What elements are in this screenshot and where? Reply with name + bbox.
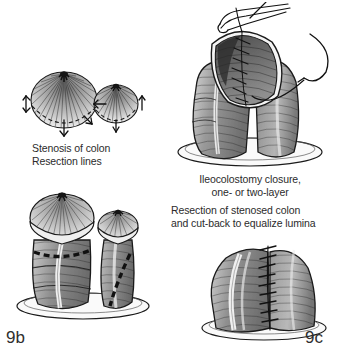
caption-resection-of-stenosed-colon: Resection of stenosed colon and cut-back… xyxy=(171,204,316,229)
caption-stenosis-of-colon: Stenosis of colon Resection lines xyxy=(32,142,110,167)
anastomosis-lobe-left xyxy=(204,249,274,332)
stenosis-of-colon-illustration xyxy=(18,58,148,140)
suture-thread xyxy=(236,8,242,32)
stenotic-cap-left xyxy=(30,193,94,244)
illustration-page: Stenosis of colon Resection lines Ileoco… xyxy=(0,0,339,358)
surgical-needle-icon xyxy=(298,34,328,82)
resected-bowel-segments-illustration xyxy=(12,182,154,324)
figure-label-9b: 9b xyxy=(6,329,25,347)
figure-label-9c: 9c xyxy=(305,329,323,347)
forceps-icon xyxy=(218,2,290,33)
bowel-segment-right xyxy=(97,240,138,308)
ileocolostomy-closure-illustration xyxy=(158,2,339,170)
caption-ileocolostomy-closure: Ileocolostomy closure, one- or two-layer xyxy=(170,173,330,198)
stenotic-cap-right xyxy=(98,210,138,244)
anastomosis-lobe-right xyxy=(266,250,321,331)
